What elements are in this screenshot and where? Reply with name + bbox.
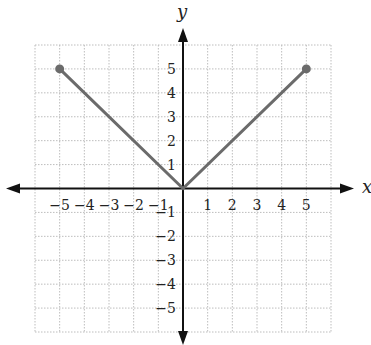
x-tick-label: −5 xyxy=(49,197,70,213)
x-axis-right-arrow-icon xyxy=(340,184,354,194)
x-tick-label: −2 xyxy=(123,197,144,213)
x-tick-label: 3 xyxy=(253,197,262,213)
x-tick-label: −3 xyxy=(99,197,120,213)
y-tick-label: 1 xyxy=(167,157,176,173)
y-tick-label: −1 xyxy=(155,204,176,220)
y-tick-label: −4 xyxy=(155,276,176,292)
x-tick-label: 4 xyxy=(277,197,286,213)
x-tick-label: −4 xyxy=(74,197,95,213)
x-axis-label: x xyxy=(362,176,371,197)
y-tick-label: 5 xyxy=(167,61,176,77)
y-axis-label: y xyxy=(176,1,188,22)
y-axis-up-arrow-icon xyxy=(178,28,188,42)
x-tick-label: 1 xyxy=(203,197,212,213)
y-tick-label: 2 xyxy=(167,133,176,149)
y-tick-label: −2 xyxy=(155,228,176,244)
y-tick-label: −5 xyxy=(155,300,176,316)
absolute-value-graph: −5−4−3−2−11234554321−1−2−3−4−5 x y xyxy=(0,0,371,345)
endpoint-dot xyxy=(55,64,64,73)
y-tick-label: 4 xyxy=(167,85,176,101)
x-tick-label: 5 xyxy=(302,197,311,213)
y-tick-label: −3 xyxy=(155,252,176,268)
x-axis-left-arrow-icon xyxy=(6,184,20,194)
y-axis-down-arrow-icon xyxy=(178,331,188,345)
endpoint-dot xyxy=(302,64,311,73)
y-tick-label: 3 xyxy=(167,109,176,125)
x-tick-label: 2 xyxy=(228,197,237,213)
